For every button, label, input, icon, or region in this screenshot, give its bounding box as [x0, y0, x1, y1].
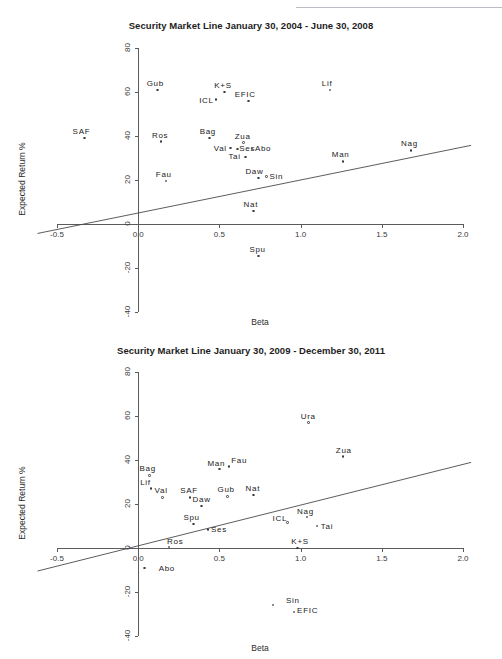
data-point-label: ICL	[199, 96, 214, 105]
data-point-marker	[207, 528, 210, 531]
data-point-label: Bag	[140, 464, 156, 473]
data-point-label: Man	[332, 150, 350, 159]
data-point-marker	[223, 91, 226, 94]
data-point-marker	[257, 255, 260, 258]
data-point-label: Ros	[152, 131, 168, 140]
data-point-label: Val	[155, 486, 168, 495]
data-point-label: Fau	[156, 170, 172, 179]
data-point-marker	[242, 141, 245, 144]
data-point-marker	[192, 523, 195, 526]
data-point-label: ICL	[273, 514, 288, 523]
data-point-label: Spu	[183, 513, 199, 522]
data-point-label: Nat	[246, 484, 261, 493]
scatter-plot-bottom: -0.50.00.51.01.52.0Beta-40-20020406080Ex…	[0, 340, 502, 659]
data-point-label: Nat	[244, 200, 259, 209]
figure-security-market-line-2004-2008: Security Market Line January 30, 2004 - …	[0, 0, 502, 340]
data-point-label: Spu	[249, 245, 265, 254]
data-point-label: Nag	[297, 507, 314, 516]
data-point-label: EFIC	[235, 90, 256, 99]
data-point-label: Man	[207, 459, 225, 468]
data-point-label: Lif	[322, 79, 333, 88]
data-point-label: Tai	[228, 152, 240, 161]
data-point-marker	[296, 547, 299, 550]
data-point-marker	[257, 177, 260, 180]
data-point-label: Abo	[159, 564, 175, 573]
data-point-label: EFIC	[297, 606, 318, 615]
data-point-marker	[160, 140, 163, 143]
data-point-marker	[226, 495, 229, 498]
data-point-label: Sin	[269, 172, 283, 181]
data-point-marker	[307, 421, 310, 424]
data-point-marker	[218, 468, 221, 471]
data-point-marker	[247, 100, 250, 103]
data-point-label: Ros	[167, 537, 183, 546]
data-point-label: Abo	[255, 144, 271, 153]
data-point-label: Zua	[336, 446, 352, 455]
data-point-label: Ura	[301, 412, 316, 421]
data-point-label: Gub	[147, 79, 164, 88]
data-point-label: Lif	[140, 478, 151, 487]
data-point-marker	[148, 474, 151, 477]
data-point-marker	[161, 496, 164, 499]
data-point-marker	[244, 156, 247, 159]
data-point-marker	[342, 455, 345, 458]
figure-security-market-line-2009-2011: Security Market Line January 30, 2009 - …	[0, 340, 502, 659]
data-point-label: Daw	[245, 167, 263, 176]
data-point-marker	[265, 175, 268, 178]
data-point-label: Fau	[231, 456, 247, 465]
data-point-marker	[156, 89, 159, 92]
data-point-label: Nag	[401, 139, 418, 148]
data-point-marker	[342, 160, 345, 163]
scatter-plot-top: -0.50.00.51.01.52.0Beta-40-20020406080Ex…	[0, 0, 502, 340]
data-point-marker	[252, 210, 255, 213]
data-point-label: Tai	[321, 522, 333, 531]
data-point-label: K+S	[214, 81, 231, 90]
data-point-label: Daw	[193, 495, 211, 504]
security-market-line	[0, 340, 502, 659]
data-point-label: Zua	[235, 132, 251, 141]
data-point-label: Val	[214, 144, 227, 153]
data-point-label: Ses	[211, 525, 227, 534]
data-point-marker	[410, 149, 413, 152]
data-point-marker	[143, 567, 146, 570]
data-point-label: Sin	[286, 596, 300, 605]
data-point-label: Gub	[218, 485, 235, 494]
data-point-label: K+S	[291, 537, 308, 546]
data-point-label: Bag	[200, 127, 216, 136]
data-point-label: SAF	[180, 486, 198, 495]
data-point-label: SAF	[73, 127, 91, 136]
